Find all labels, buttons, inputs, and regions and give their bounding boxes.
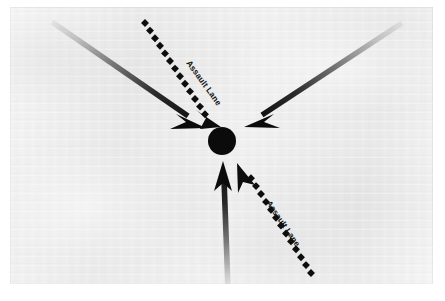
assault-lane-diagram: Assault Lane: [10, 7, 433, 284]
assault-lane-lower-label: Assault Lane: [264, 199, 302, 249]
scanned-photo-plate: Assault Lane: [10, 7, 433, 284]
assault-arrow-bottom: [214, 161, 232, 284]
objective-marker: [208, 127, 236, 155]
assault-arrow-upper-right: [244, 23, 402, 128]
figure-caption: [11, 288, 431, 299]
assault-lane-lower: Assault Lane: [237, 163, 315, 277]
assault-lane-upper-label: Assault Lane: [184, 58, 224, 107]
page-root: Assault Lane: [0, 0, 445, 301]
